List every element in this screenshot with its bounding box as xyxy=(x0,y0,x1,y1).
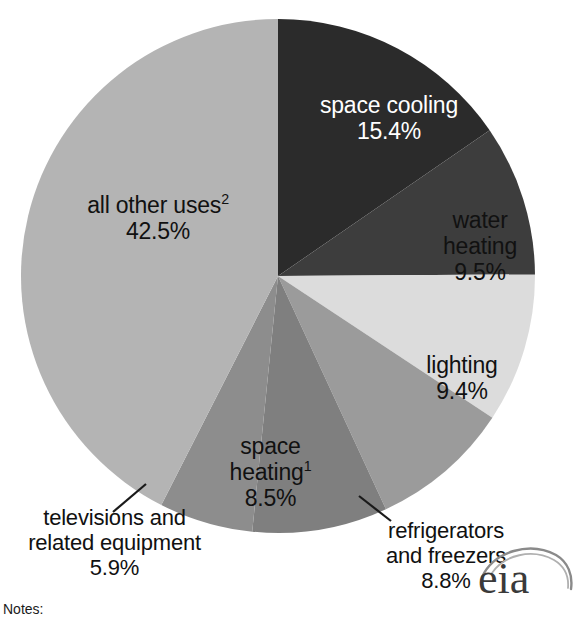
slice-label-lighting: lighting 9.4% xyxy=(398,352,526,404)
eia-wordmark: eia xyxy=(478,557,529,601)
slice-label-televisions-and-related-equipment: televisions and related equipment 5.9% xyxy=(2,505,227,580)
slice-label-water-heating: water heating 9.5% xyxy=(410,207,550,286)
slice-label-all-other-uses-name-text: all other uses xyxy=(87,192,221,218)
slice-label-water-heating-name-line1: water xyxy=(410,207,550,233)
slice-label-televisions-value: 5.9% xyxy=(2,555,227,580)
slice-label-all-other-uses-name: all other uses2 xyxy=(62,192,254,218)
notes-label: Notes: xyxy=(3,601,43,617)
slice-label-all-other-uses: all other uses2 42.5% xyxy=(62,192,254,244)
slice-label-televisions-name-line2: related equipment xyxy=(2,530,227,555)
slice-label-all-other-uses-value: 42.5% xyxy=(62,218,254,244)
slice-label-televisions-name-line1: televisions and xyxy=(2,505,227,530)
eia-logo: eia xyxy=(478,543,576,609)
slice-label-space-heating-name-line2: heating1 xyxy=(203,459,338,485)
slice-label-space-heating-name-line1: space xyxy=(203,433,338,459)
pie-chart-page: space cooling 15.4% water heating 9.5% l… xyxy=(0,0,578,624)
slice-label-space-cooling-name: space cooling xyxy=(291,92,487,118)
slice-label-space-heating: space heating1 8.5% xyxy=(203,433,338,512)
slice-label-water-heating-name-line2: heating xyxy=(410,233,550,259)
slice-label-space-cooling-value: 15.4% xyxy=(291,118,487,144)
slice-label-water-heating-value: 9.5% xyxy=(410,259,550,285)
slice-label-space-heating-name-line2-text: heating xyxy=(230,459,304,485)
slice-label-space-heating-footnote: 1 xyxy=(304,459,312,475)
slice-label-refrigerators-name-line1: refrigerators xyxy=(351,518,541,543)
slice-label-all-other-uses-footnote: 2 xyxy=(221,191,229,207)
slice-label-lighting-name: lighting xyxy=(398,352,526,378)
slice-label-lighting-value: 9.4% xyxy=(398,378,526,404)
slice-label-space-cooling: space cooling 15.4% xyxy=(291,92,487,144)
